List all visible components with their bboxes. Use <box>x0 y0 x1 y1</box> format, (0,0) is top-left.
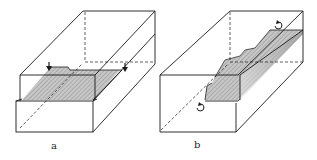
panel-b <box>160 11 303 132</box>
panel-a <box>16 11 155 132</box>
panel-b-label: b <box>194 139 200 150</box>
groove-surface <box>22 67 120 100</box>
rotation-arrow-upper-icon <box>275 20 282 29</box>
figure: a b <box>0 0 317 160</box>
diagram-canvas <box>0 0 317 160</box>
panel-a-label: a <box>51 140 57 151</box>
rotation-arrow-lower-icon <box>197 102 204 111</box>
